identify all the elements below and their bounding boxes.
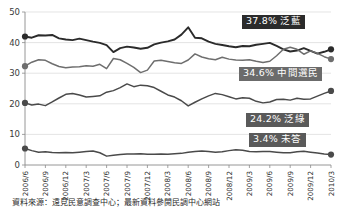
svg-text:40: 40 [9, 38, 20, 48]
svg-text:2009/9: 2009/9 [286, 171, 295, 197]
svg-text:2007/9: 2007/9 [123, 171, 132, 197]
svg-text:2009/12: 2009/12 [306, 171, 315, 201]
callout-pan-blue: 37.8% 泛藍 [242, 15, 305, 29]
callout-pan-green: 24.2% 泛綠 [246, 113, 309, 127]
svg-text:2006/9: 2006/9 [41, 171, 50, 197]
svg-text:10: 10 [9, 129, 20, 139]
callout-no-answer: 3.4% 未答 [249, 133, 306, 147]
svg-text:2008/9: 2008/9 [204, 171, 213, 197]
svg-text:50: 50 [9, 7, 20, 17]
callout-middle-voters: 34.6% 中間選民 [239, 67, 322, 81]
chart-container: 01020304050 2006/62006/92006/122007/3200… [0, 0, 349, 214]
svg-text:30: 30 [9, 68, 20, 78]
source-note: 資料來源：遠見民意調查中心；最新資料參閱民調中心網站 [12, 196, 220, 207]
svg-text:2010/3: 2010/3 [327, 171, 336, 196]
svg-text:0: 0 [15, 160, 20, 170]
svg-text:2007/6: 2007/6 [102, 171, 111, 197]
svg-text:2009/6: 2009/6 [265, 171, 274, 197]
svg-text:2006/6: 2006/6 [21, 171, 30, 197]
line-chart-plot: 01020304050 2006/62006/92006/122007/3200… [0, 0, 349, 214]
svg-text:2008/6: 2008/6 [184, 171, 193, 197]
svg-text:2008/12: 2008/12 [225, 171, 234, 201]
y-axis-ticks: 01020304050 [9, 7, 25, 170]
svg-text:20: 20 [9, 99, 20, 109]
svg-text:2008/3: 2008/3 [163, 171, 172, 196]
svg-text:2009/3: 2009/3 [245, 171, 254, 196]
svg-text:2007/3: 2007/3 [82, 171, 91, 196]
